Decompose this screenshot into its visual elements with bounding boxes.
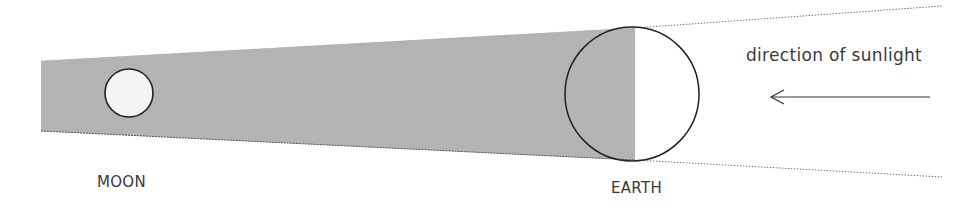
sunlight-direction-label: direction of sunlight: [746, 45, 922, 65]
upper-boundary-line: [635, 6, 942, 28]
moon-label: MOON: [97, 173, 146, 191]
lower-boundary-line: [635, 160, 942, 177]
earth-label: EARTH: [611, 179, 662, 197]
sunlight-arrow-icon: [771, 90, 930, 104]
diagram-canvas: [0, 0, 976, 215]
moon: [105, 69, 153, 117]
